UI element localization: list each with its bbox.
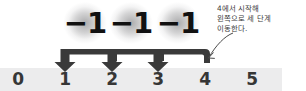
number-line-figure: −1 −1 −1 4에서 시작해 왼쪽으로 세 단계 이동한다. 0 1	[0, 0, 306, 91]
callout-leader-line	[209, 33, 234, 58]
jump-hook-3	[148, 49, 211, 72]
callout-text: 4에서 시작해 왼쪽으로 세 단계 이동한다.	[217, 4, 303, 35]
